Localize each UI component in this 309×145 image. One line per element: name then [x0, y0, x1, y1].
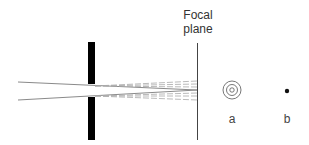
aperture-screen-upper [88, 42, 95, 84]
spot-b-label: b [282, 112, 292, 126]
spot-a-label: a [227, 112, 237, 126]
focal-plane-label: Focal plane [178, 8, 218, 36]
point-spot-icon [285, 89, 289, 93]
focal-plane-label-line1: Focal [178, 8, 218, 22]
airy-pattern-icon [223, 81, 241, 99]
diffraction-diagram [0, 0, 309, 145]
diffracted-rays-lower [95, 93, 197, 100]
aperture-screen-lower [88, 97, 95, 140]
incident-ray-lower [18, 90, 197, 100]
focal-plane-label-line2: plane [178, 22, 218, 36]
